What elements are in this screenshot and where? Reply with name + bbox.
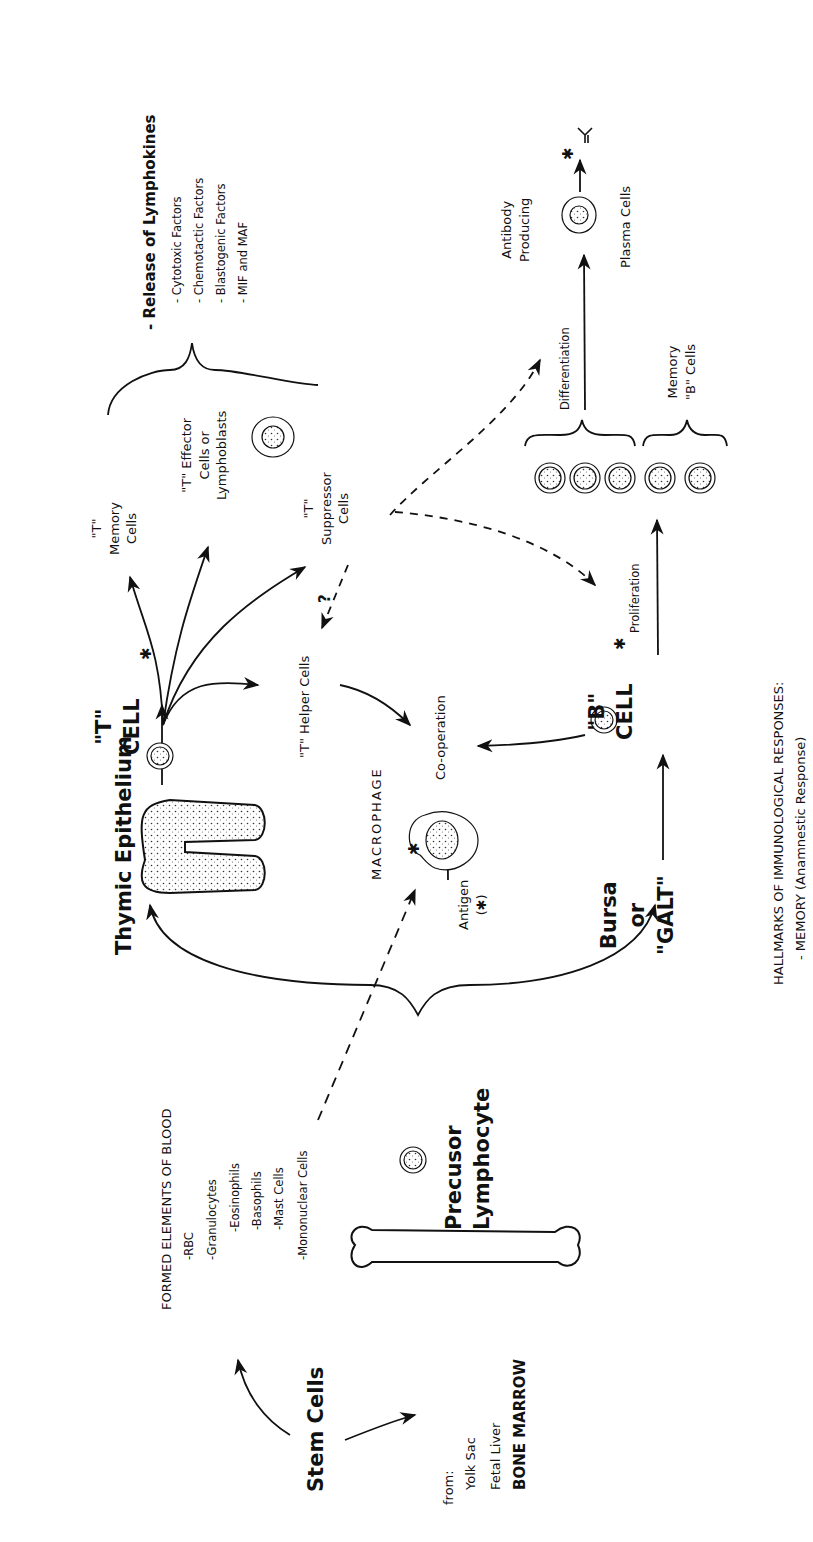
thymus-icon [142,800,265,893]
antibody-asterisk: ✱ [558,147,578,160]
cooperation-label: Co-operation [432,695,450,780]
lymphokine-cytotoxic: - Cytotoxic Factors [170,196,186,303]
memory-b-cells-label: Memory "B" Cells [664,344,699,400]
brace-differentiation [525,420,635,446]
bone-icon [351,1227,579,1267]
proliferation-asterisk: ✱ [610,637,630,650]
macrophage-asterisk: ✱ [404,842,424,855]
antigen-label: Antigen (✱) [455,880,490,930]
t-cell-label: "T" CELL [90,698,147,755]
t-helper-cells-label: "T" Helper Cells [296,656,314,758]
effector-cell-icon [252,417,294,457]
arrow-suppressor-to-proliferation [395,512,595,585]
stem-source-fetal-liver: Fetal Liver [487,1423,505,1490]
lymphokines-heading: - Release of Lymphokines [140,114,160,330]
memory-b-cell-icon [685,463,715,493]
stem-cells-label: Stem Cells [302,1367,330,1492]
memory-b-cell-icon [645,463,675,493]
arrow-bcell-to-coop [478,735,585,746]
brace-precursor [150,905,655,1015]
arrow-mono-to-macrophage [318,890,415,1120]
precursor-cell-icon [400,1147,426,1173]
t-cell-asterisk: ✱ [136,647,156,660]
t-cell-icon [147,743,173,769]
proliferated-cell-icon [605,463,635,493]
formed-element-eosinophils: -Eosinophils [228,1163,244,1232]
formed-element-granulocytes: -Granulocytes [205,1179,221,1260]
arrow-differentiation [584,255,585,410]
formed-element-mast-cells: -Mast Cells [272,1167,288,1230]
antibody-producing-label: Antibody Producing [498,198,533,262]
arrow-helper-to-coop [340,685,410,725]
arrow-stem-to-marrow [345,1415,415,1440]
formed-element-mononuclear: -Mononuclear Cells [296,1150,312,1260]
plasma-cell-icon [562,197,596,233]
question-mark-label: ? [315,594,335,603]
arrow-proliferation [657,520,658,655]
lymphokine-blastogenic: - Blastogenic Factors [214,183,230,303]
arrow-tcell-to-effector [163,547,208,725]
proliferated-cell-icon [535,463,565,493]
arrow-stem-to-formed [238,1360,290,1435]
formed-elements-heading: FORMED ELEMENTS OF BLOOD [158,1109,176,1310]
stem-source-bone-marrow: BONE MARROW [510,1359,530,1490]
differentiation-label: Differentiation [558,327,574,410]
brace-memory [643,420,727,446]
t-suppressor-cells-label: "T" Suppressor Cells [300,472,353,545]
hallmarks-title: HALLMARKS OF IMMUNOLOGICAL RESPONSES: [770,682,788,985]
arrow-suppressor-to-differentiation [390,360,540,515]
macrophage-icon [409,812,478,870]
thymic-epithelium-label: Thymic Epithelium [110,736,138,955]
hallmarks-subtitle: - MEMORY (Anamnestic Response) [792,737,810,960]
bursa-galt-label: Bursa or "GALT" [595,875,680,955]
formed-element-rbc: -RBC [182,1232,198,1260]
lymphokine-chemotactic: - Chemotactic Factors [192,178,208,303]
plasma-cells-label: Plasma Cells [617,186,635,268]
precursor-lymphocyte-label: Precusor Lymphocyte [440,1088,497,1230]
brace-lymphokines [108,343,318,415]
formed-element-basophils: -Basophils [250,1171,266,1230]
t-memory-cells-label: "T" Memory Cells [88,502,141,555]
stem-source-yolk-sac: Yolk Sac [462,1437,480,1490]
proliferated-cell-icon [570,463,600,493]
antibody-icon [578,128,592,143]
stem-sources-heading: from: [440,1470,458,1505]
t-effector-cells-label: "T" Effector Cells or Lymphoblasts [178,411,231,500]
lymphokine-mif-maf: - MIF and MAF [236,222,252,303]
arrow-tcell-to-suppressor [163,567,305,725]
macrophage-label: MACROPHAGE [368,767,386,880]
proliferation-label: Proliferation [628,563,644,633]
b-cell-label: "B" CELL [583,683,640,740]
